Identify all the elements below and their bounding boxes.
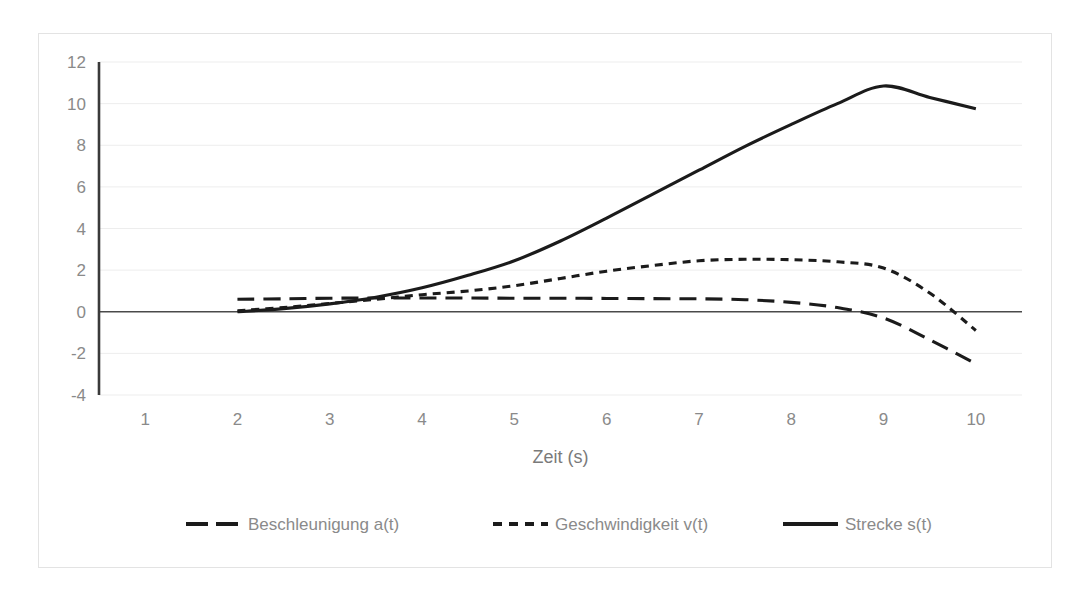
x-tick-label: 10 (966, 410, 985, 429)
y-tick-label: 8 (77, 136, 86, 155)
y-tick-label: 4 (77, 220, 86, 239)
series-line (237, 86, 975, 312)
y-tick-label: 10 (67, 95, 86, 114)
y-tick-labels: 121086420-2-4 (67, 53, 86, 405)
y-tick-label: 12 (67, 53, 86, 72)
legend-item[interactable]: Strecke s(t) (783, 515, 932, 534)
x-tick-label: 7 (694, 410, 703, 429)
x-tick-label: 2 (233, 410, 242, 429)
legend-item[interactable]: Beschleunigung a(t) (186, 515, 399, 534)
x-tick-label: 4 (417, 410, 426, 429)
legend-label: Beschleunigung a(t) (248, 515, 399, 534)
x-tick-labels: 12345678910 (140, 410, 985, 429)
y-tick-label: -4 (71, 386, 86, 405)
data-series (237, 86, 975, 364)
y-tick-label: -2 (71, 344, 86, 363)
chart-legend: Beschleunigung a(t)Geschwindigkeit v(t)S… (186, 515, 932, 534)
legend-item[interactable]: Geschwindigkeit v(t) (493, 515, 708, 534)
x-axis-title: Zeit (s) (533, 447, 589, 467)
legend-label: Geschwindigkeit v(t) (555, 515, 708, 534)
x-tick-label: 8 (787, 410, 796, 429)
gridlines (99, 62, 1022, 395)
y-tick-label: 2 (77, 261, 86, 280)
legend-label: Strecke s(t) (845, 515, 932, 534)
series-line (237, 298, 975, 364)
x-tick-label: 5 (510, 410, 519, 429)
x-tick-label: 9 (879, 410, 888, 429)
x-tick-label: 1 (140, 410, 149, 429)
y-tick-label: 6 (77, 178, 86, 197)
x-tick-label: 3 (325, 410, 334, 429)
x-tick-label: 6 (602, 410, 611, 429)
y-tick-label: 0 (77, 303, 86, 322)
chart-plot: 121086420-2-4 12345678910 Zeit (s) Besch… (0, 0, 1085, 598)
